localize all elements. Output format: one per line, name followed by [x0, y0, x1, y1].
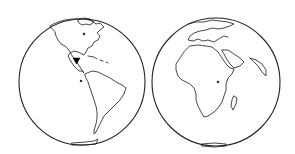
globes-svg	[0, 0, 295, 154]
globe-outline	[152, 18, 280, 146]
globe-outline	[19, 19, 145, 145]
map-figure	[0, 0, 295, 154]
island-dot	[80, 80, 82, 82]
island-dot	[83, 33, 85, 35]
western-globe	[19, 18, 145, 145]
island-dot	[217, 81, 219, 83]
eastern-globe	[152, 18, 280, 147]
